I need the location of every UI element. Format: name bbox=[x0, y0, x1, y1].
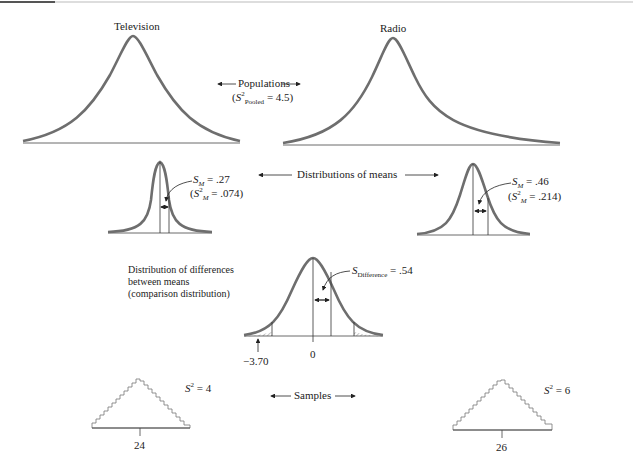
television-sample-mean: 24 bbox=[134, 439, 145, 452]
radio-population-curve bbox=[283, 38, 560, 145]
diagram-canvas bbox=[0, 0, 633, 475]
television-sample-variance: S2 = 4 bbox=[185, 382, 211, 395]
television-sm-variance-label: (S2M = .074) bbox=[190, 187, 243, 200]
television-sample-histogram bbox=[92, 379, 190, 436]
radio-sm-label: SM = .46 bbox=[512, 175, 549, 188]
radio-sample-variance: S2 = 6 bbox=[544, 384, 570, 397]
radio-title: Radio bbox=[380, 22, 406, 35]
television-population-curve bbox=[23, 36, 240, 143]
radio-sample-mean: 26 bbox=[496, 441, 507, 454]
means-label: Distributions of means bbox=[297, 168, 397, 181]
radio-sample-histogram bbox=[453, 380, 552, 438]
television-title: Television bbox=[114, 20, 160, 33]
television-sm-label: SM = .27 bbox=[193, 173, 230, 186]
radio-sm-variance-label: (S2M = .214) bbox=[508, 190, 561, 203]
s-difference-label: SDifference = .54 bbox=[352, 264, 413, 277]
pooled-variance-label: (S2Pooled = 4.5) bbox=[232, 91, 293, 104]
difference-label-line3: (comparison distribution) bbox=[128, 287, 230, 300]
populations-label: Populations bbox=[238, 77, 290, 90]
zero-tick-label: 0 bbox=[310, 348, 316, 361]
sample-score-marker: −3.70 bbox=[243, 355, 268, 368]
samples-label: Samples bbox=[294, 389, 331, 402]
